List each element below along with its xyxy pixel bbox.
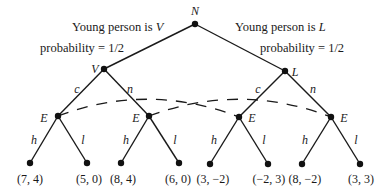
action-label-l: l (81, 133, 85, 147)
action-label-h: h (31, 133, 37, 147)
payoff-label: (8, −2) (289, 172, 322, 186)
employer-label: E (247, 111, 256, 125)
employer-node (146, 113, 152, 119)
action-label-h: h (211, 133, 217, 147)
payoff-label: (−2, 3) (253, 172, 286, 186)
payoff-label: (3, 3) (348, 172, 374, 186)
type-node-l (282, 68, 288, 74)
payoff-label: (6, 0) (165, 172, 191, 186)
type-label-l: L (291, 65, 299, 79)
employer-node (55, 113, 61, 119)
leaf-node (27, 160, 33, 166)
chance-label-v: Young person is V (72, 20, 165, 34)
action-label-h: h (302, 133, 308, 147)
employer-label: E (39, 111, 48, 125)
game-tree-diagram: N V L E E E E Young person is V probabil… (0, 0, 391, 194)
payoff-label: (7, 4) (17, 172, 43, 186)
leaf-node (299, 161, 305, 167)
root-label: N (190, 4, 200, 18)
chance-label-l: Young person is L (235, 20, 326, 34)
payoff-label: (5, 0) (76, 172, 102, 186)
action-label-n: n (310, 82, 316, 96)
action-label-c: c (255, 82, 261, 96)
leaf-node (84, 160, 90, 166)
payoff-label: (8, 4) (110, 172, 136, 186)
action-label-l: l (173, 133, 177, 147)
employer-label: E (339, 111, 348, 125)
probability-label-l: probability = 1/2 (260, 41, 344, 55)
leaf-node (265, 161, 271, 167)
action-label-c: c (74, 82, 80, 96)
payoff-label: (3, −2) (197, 172, 230, 186)
action-label-l: l (262, 133, 266, 147)
edge-l-c (239, 71, 285, 117)
leaf-node (176, 160, 182, 166)
leaf-node (118, 160, 124, 166)
leaf-node (357, 161, 363, 167)
leaf-node (207, 161, 213, 167)
employer-node (236, 114, 242, 120)
probability-label-v: probability = 1/2 (40, 41, 124, 55)
action-label-h: h (123, 133, 129, 147)
root-node (192, 21, 198, 27)
action-label-n: n (127, 82, 133, 96)
action-label-l: l (354, 133, 358, 147)
type-node-v (101, 66, 107, 72)
employer-label: E (131, 111, 140, 125)
employer-node (328, 114, 334, 120)
